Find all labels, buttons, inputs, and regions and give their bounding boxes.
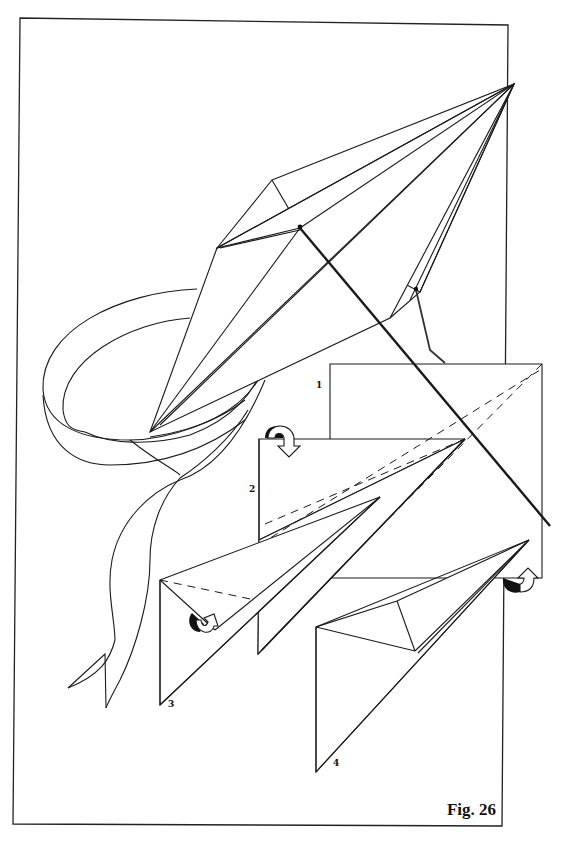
step-1-label: 1: [316, 380, 322, 390]
kite-folding-figure: 1 2 3: [0, 0, 573, 843]
step-3-label: 3: [168, 699, 174, 709]
kite-bridle: [416, 290, 445, 363]
bridle-knot: [414, 287, 418, 291]
string-knot: [298, 225, 303, 230]
step-4-label: 4: [333, 758, 339, 768]
figure-caption: Fig. 26: [447, 800, 496, 819]
step-2-label: 2: [249, 484, 255, 494]
